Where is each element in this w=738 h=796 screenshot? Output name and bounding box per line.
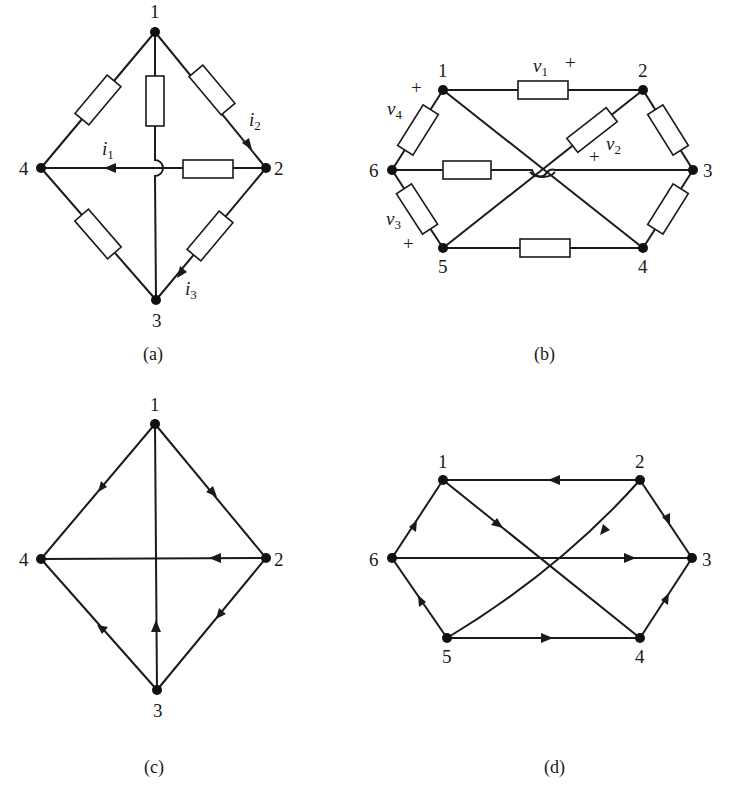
voltage-label-v3: v3 <box>386 208 401 232</box>
node-label-a-4: 4 <box>19 158 29 179</box>
panel-c-graph: 1 2 3 4 (c) <box>19 394 284 778</box>
node-label-d-2: 2 <box>635 451 645 472</box>
node-b-2 <box>638 85 648 95</box>
current-label-i2: i2 <box>249 109 261 133</box>
node-label-c-2: 2 <box>274 549 284 570</box>
node-label-d-4: 4 <box>635 646 645 667</box>
figure: 1 2 3 4 i1 i2 i3 (a) <box>0 0 738 796</box>
caption-c: (c) <box>144 757 164 778</box>
node-label-a-3: 3 <box>152 310 162 331</box>
arrow-c-3-1-icon <box>151 620 161 632</box>
node-label-d-5: 5 <box>442 646 452 667</box>
arrow-d-5-4-icon <box>541 633 553 643</box>
node-d-4 <box>635 633 645 643</box>
resistor-1-2 <box>189 65 235 115</box>
node-a-4 <box>36 163 46 173</box>
voltage-plus-v1: + <box>565 52 576 73</box>
node-b-1 <box>438 85 448 95</box>
voltage-plus-v2: + <box>589 146 600 167</box>
current-label-i3: i3 <box>185 278 197 302</box>
node-d-2 <box>635 475 645 485</box>
arrow-d-2-1-icon <box>548 475 560 485</box>
caption-b: (b) <box>534 344 555 365</box>
node-b-5 <box>438 243 448 253</box>
node-d-6 <box>387 553 397 563</box>
node-label-d-1: 1 <box>438 451 448 472</box>
node-b-4 <box>638 243 648 253</box>
panel-b-circuit: 1 2 3 4 5 6 v1 + v2 + v3 + v4 + (b) <box>369 52 713 365</box>
node-label-a-2: 2 <box>274 158 284 179</box>
node-label-d-6: 6 <box>369 549 379 570</box>
node-label-b-5: 5 <box>438 256 448 277</box>
resistor-1-3 <box>146 76 164 126</box>
resistor-1-4 <box>75 75 121 125</box>
node-label-c-3: 3 <box>153 700 163 721</box>
arrow-d-6-3-icon <box>624 553 636 563</box>
node-c-2 <box>261 553 271 563</box>
node-c-3 <box>152 685 162 695</box>
node-label-c-4: 4 <box>19 549 29 570</box>
node-label-d-3: 3 <box>702 549 712 570</box>
node-label-c-1: 1 <box>150 394 160 415</box>
caption-a: (a) <box>143 344 163 365</box>
resistor-b-3-4 <box>648 184 689 234</box>
panel-d-graph: 1 2 3 4 5 6 (d) <box>369 451 712 778</box>
node-b-3 <box>688 165 698 175</box>
node-c-4 <box>36 554 46 564</box>
node-d-5 <box>442 633 452 643</box>
node-label-b-2: 2 <box>638 60 648 81</box>
resistor-b-6-3 <box>443 161 491 179</box>
panel-a-circuit: 1 2 3 4 i1 i2 i3 (a) <box>19 1 284 365</box>
node-b-6 <box>387 165 397 175</box>
node-label-a-1: 1 <box>150 1 160 22</box>
node-a-2 <box>261 163 271 173</box>
node-c-1 <box>150 419 160 429</box>
node-label-b-6: 6 <box>369 160 379 181</box>
resistor-2-4 <box>183 160 233 178</box>
node-a-3 <box>151 295 161 305</box>
caption-d: (d) <box>544 757 565 778</box>
voltage-plus-v3: + <box>403 233 414 254</box>
resistor-4-3 <box>75 209 121 259</box>
voltage-label-v4: v4 <box>387 98 402 122</box>
voltage-label-v1: v1 <box>533 55 548 79</box>
node-label-b-1: 1 <box>438 60 448 81</box>
node-label-b-4: 4 <box>638 256 648 277</box>
voltage-label-v2: v2 <box>606 133 621 157</box>
node-d-3 <box>687 553 697 563</box>
resistor-b-2-3 <box>648 105 689 155</box>
arrow-c-2-4-icon <box>209 553 221 563</box>
resistor-b-1-2 <box>518 81 568 99</box>
arrow-d-2-5-icon <box>600 524 610 535</box>
node-a-1 <box>150 27 160 37</box>
resistor-2-3 <box>187 211 233 261</box>
node-label-b-3: 3 <box>703 160 713 181</box>
resistor-b-5-6 <box>396 184 437 234</box>
arrow-i1-icon <box>104 163 116 173</box>
resistor-b-6-1 <box>398 105 439 155</box>
resistor-b-4-5 <box>520 239 570 257</box>
node-d-1 <box>438 475 448 485</box>
current-label-i1: i1 <box>102 138 114 162</box>
voltage-plus-v4: + <box>411 77 422 98</box>
arrow-i3-icon <box>177 266 187 278</box>
